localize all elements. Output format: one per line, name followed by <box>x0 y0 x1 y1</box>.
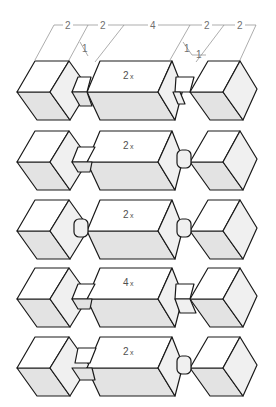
assembly-row-3: 2 x <box>17 200 257 259</box>
assembly-row-4: 4 x <box>17 268 257 327</box>
svg-text:x: x <box>130 212 134 219</box>
dimension-label: 2 <box>100 20 106 31</box>
assembly-row-2: 2 x <box>17 131 257 190</box>
svg-text:x: x <box>130 73 134 80</box>
joinery-diagram: 2 2 4 2 2 1 1 1 2 x <box>0 0 276 407</box>
multiplier-label: 2 <box>123 346 129 357</box>
joint-offset-label: 1 <box>196 49 202 60</box>
assembly-row-1: 2 x <box>17 61 257 120</box>
dimension-label: 4 <box>150 20 156 31</box>
svg-text:x: x <box>130 280 134 287</box>
assembly-row-5: 2 x <box>17 337 257 396</box>
svg-text:x: x <box>130 143 134 150</box>
multiplier-label: 2 <box>123 209 129 220</box>
multiplier-label: 2 <box>123 140 129 151</box>
multiplier-label: 2 <box>123 70 129 81</box>
dimension-label: 2 <box>237 20 243 31</box>
dimension-label: 2 <box>204 20 210 31</box>
svg-text:x: x <box>130 349 134 356</box>
dimension-label: 2 <box>65 20 71 31</box>
multiplier-label: 4 <box>123 277 129 288</box>
joint-offset-label: 1 <box>184 43 190 54</box>
joint-offset-label: 1 <box>82 43 88 54</box>
